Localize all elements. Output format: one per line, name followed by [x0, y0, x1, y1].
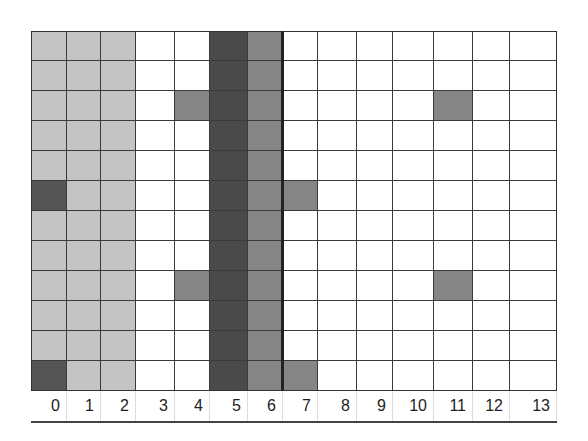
grid-cell [248, 301, 283, 331]
grid-cell [248, 31, 283, 61]
grid-cell [318, 91, 357, 121]
grid-cell [393, 271, 434, 301]
grid-cell [67, 151, 101, 181]
grid-cell [434, 61, 473, 91]
grid-cell [283, 181, 318, 211]
grid-cell [175, 211, 210, 241]
grid-cell [136, 181, 175, 211]
grid-cell [210, 211, 248, 241]
grid-cell [67, 61, 101, 91]
grid-cell [31, 91, 67, 121]
grid-cell [357, 181, 393, 211]
grid-cell [357, 331, 393, 361]
grid-cell [473, 61, 510, 91]
grid-cell [283, 31, 318, 61]
grid-cell [248, 121, 283, 151]
grid-cell [101, 121, 136, 151]
grid-cell [318, 151, 357, 181]
grid-cell [357, 31, 393, 61]
column-label: 11 [434, 391, 473, 421]
grid-cell [210, 301, 248, 331]
grid-cell [283, 271, 318, 301]
grid-cell [283, 211, 318, 241]
grid-cell [136, 31, 175, 61]
grid-cell [175, 331, 210, 361]
grid-cell [393, 151, 434, 181]
grid-cell [175, 361, 210, 391]
grid-cell [357, 241, 393, 271]
grid-cell [101, 151, 136, 181]
grid-cell [175, 241, 210, 271]
grid-cell [101, 31, 136, 61]
grid-cell [248, 361, 283, 391]
grid-cell [473, 241, 510, 271]
label-row-bottom-rule [31, 421, 557, 423]
grid-cell [248, 151, 283, 181]
grid-cell [393, 211, 434, 241]
grid-cell [357, 151, 393, 181]
grid-cell [283, 61, 318, 91]
grid-cell [357, 361, 393, 391]
grid-cell [473, 301, 510, 331]
column-label: 8 [318, 391, 357, 421]
grid-cell [175, 121, 210, 151]
grid-cell [136, 301, 175, 331]
grid-cell [318, 331, 357, 361]
grid-cell [210, 61, 248, 91]
grid-cell [510, 241, 557, 271]
grid-cell [283, 301, 318, 331]
column-label: 13 [510, 391, 557, 421]
grid-cell [210, 181, 248, 211]
grid-cell [101, 241, 136, 271]
grid-cell [67, 121, 101, 151]
grid-cell [67, 91, 101, 121]
grid-cell [473, 121, 510, 151]
column-label: 5 [210, 391, 248, 421]
grid-cell [210, 91, 248, 121]
grid-cell [175, 301, 210, 331]
grid-cell [67, 271, 101, 301]
column-label: 0 [31, 391, 67, 421]
grid-cell [101, 331, 136, 361]
grid-cell [248, 271, 283, 301]
grid-cell [318, 181, 357, 211]
grid-cell [434, 91, 473, 121]
grid-cell [136, 151, 175, 181]
grid-cell [510, 151, 557, 181]
grid-cell [136, 61, 175, 91]
grid-cell [510, 61, 557, 91]
grid-cell [510, 181, 557, 211]
grid-cell [357, 211, 393, 241]
grid-cell [248, 181, 283, 211]
grid-cell [67, 301, 101, 331]
grid-cell [67, 211, 101, 241]
grid-cell [175, 61, 210, 91]
grid-cell [210, 31, 248, 61]
column-label: 10 [393, 391, 434, 421]
grid-cell [434, 31, 473, 61]
grid-cell [210, 151, 248, 181]
grid-cell [248, 91, 283, 121]
grid-cell [283, 331, 318, 361]
grid-cell [67, 31, 101, 61]
grid-cell [473, 91, 510, 121]
grid-cell [101, 211, 136, 241]
grid-cell [510, 31, 557, 61]
grid-cell [318, 31, 357, 61]
grid-cell [357, 271, 393, 301]
grid-cell [318, 271, 357, 301]
grid-cell [357, 121, 393, 151]
column-label: 9 [357, 391, 393, 421]
grid-cell [510, 301, 557, 331]
grid-cell [67, 331, 101, 361]
grid-cell [248, 241, 283, 271]
grid-cell [136, 211, 175, 241]
grid-cell [283, 361, 318, 391]
grid-cell [210, 331, 248, 361]
grid-cell [393, 61, 434, 91]
column-label: 4 [175, 391, 210, 421]
grid-cell [434, 331, 473, 361]
grid-cell [101, 61, 136, 91]
grid-cell [31, 121, 67, 151]
grid-cell [318, 61, 357, 91]
